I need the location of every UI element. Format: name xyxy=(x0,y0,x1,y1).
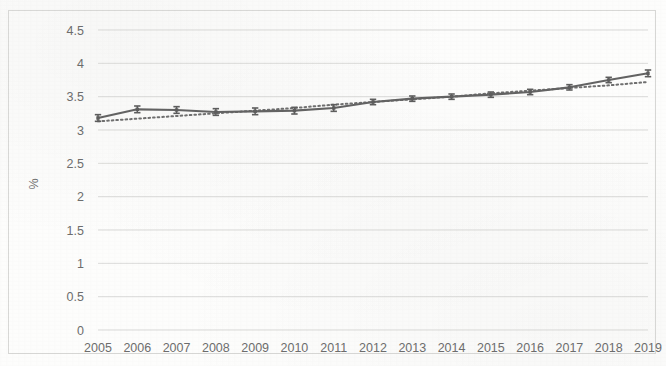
data-point-marker xyxy=(568,86,571,89)
data-point-marker xyxy=(411,97,414,100)
data-point-marker xyxy=(371,100,374,103)
observed-line-series xyxy=(98,73,648,118)
gridlines-group xyxy=(98,30,648,330)
x-axis-tick-label: 2016 xyxy=(516,341,544,355)
y-axis-tick-label: 0 xyxy=(77,324,84,338)
x-axis-tick-label: 2017 xyxy=(556,341,584,355)
y-axis-tick-label: 3.5 xyxy=(67,90,84,104)
x-axis-tick-label: 2013 xyxy=(398,341,426,355)
data-point-marker xyxy=(96,116,99,119)
x-axis-tick-label: 2012 xyxy=(359,341,387,355)
data-point-marker xyxy=(175,108,178,111)
x-axis-tick-labels: 2005200620072008200920102011201220132014… xyxy=(84,341,662,355)
y-axis-tick-labels: 00.511.522.533.544.5 xyxy=(67,24,84,338)
data-point-marker xyxy=(646,72,649,75)
chart-canvas: 00.511.522.533.544.5 2005200620072008200… xyxy=(0,0,666,366)
line-chart: 00.511.522.533.544.5 2005200620072008200… xyxy=(0,0,666,366)
y-axis-tick-label: 0.5 xyxy=(67,290,84,304)
y-axis-tick-label: 2 xyxy=(77,190,84,204)
x-axis-tick-label: 2015 xyxy=(477,341,505,355)
data-point-marker xyxy=(214,110,217,113)
x-axis-tick-label: 2010 xyxy=(281,341,309,355)
x-axis-tick-label: 2014 xyxy=(438,341,466,355)
y-axis-tick-label: 3 xyxy=(77,124,84,138)
data-point-marker xyxy=(450,95,453,98)
y-axis-title: % xyxy=(27,178,41,189)
data-point-marker xyxy=(253,110,256,113)
y-axis-tick-label: 1.5 xyxy=(67,224,84,238)
y-axis-tick-label: 4 xyxy=(77,57,84,71)
x-axis-tick-label: 2007 xyxy=(163,341,191,355)
x-axis-tick-label: 2009 xyxy=(241,341,269,355)
observed-line xyxy=(98,73,648,118)
data-point-marker xyxy=(607,78,610,81)
y-axis-tick-label: 1 xyxy=(77,257,84,271)
x-axis-tick-label: 2008 xyxy=(202,341,230,355)
x-axis-tick-label: 2019 xyxy=(634,341,662,355)
x-axis-tick-label: 2005 xyxy=(84,341,112,355)
data-point-marker xyxy=(293,109,296,112)
x-axis-tick-label: 2006 xyxy=(123,341,151,355)
x-axis-tick-label: 2011 xyxy=(320,341,347,355)
error-bars-group xyxy=(95,70,651,121)
data-point-marker xyxy=(136,108,139,111)
y-axis-tick-label: 4.5 xyxy=(67,24,84,38)
data-point-markers-group xyxy=(96,72,649,120)
data-point-marker xyxy=(528,90,531,93)
y-axis-tick-label: 2.5 xyxy=(67,157,84,171)
x-axis-tick-label: 2018 xyxy=(595,341,623,355)
data-point-marker xyxy=(332,106,335,109)
data-point-marker xyxy=(489,93,492,96)
